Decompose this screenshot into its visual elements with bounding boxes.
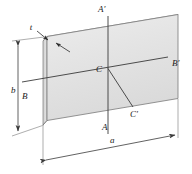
label-axis-c-prime: C′	[130, 109, 139, 119]
label-axis-a-prime: A′	[97, 4, 106, 14]
plate-thickness-face	[43, 37, 47, 126]
label-dimension-b: b	[11, 85, 16, 95]
label-axis-b-prime: B′	[172, 58, 180, 68]
label-axis-b: B	[22, 91, 28, 101]
dimension-b	[12, 37, 44, 136]
label-center-c: C	[96, 64, 103, 74]
plate-front-face	[47, 15, 178, 121]
label-axis-a: A	[101, 122, 108, 132]
label-thickness: t	[30, 22, 33, 32]
label-dimension-a: a	[110, 135, 115, 145]
plate-diagram-svg: t A′ A B′ B C C′ b a	[0, 0, 192, 174]
figure-container: t A′ A B′ B C C′ b a	[0, 0, 192, 174]
